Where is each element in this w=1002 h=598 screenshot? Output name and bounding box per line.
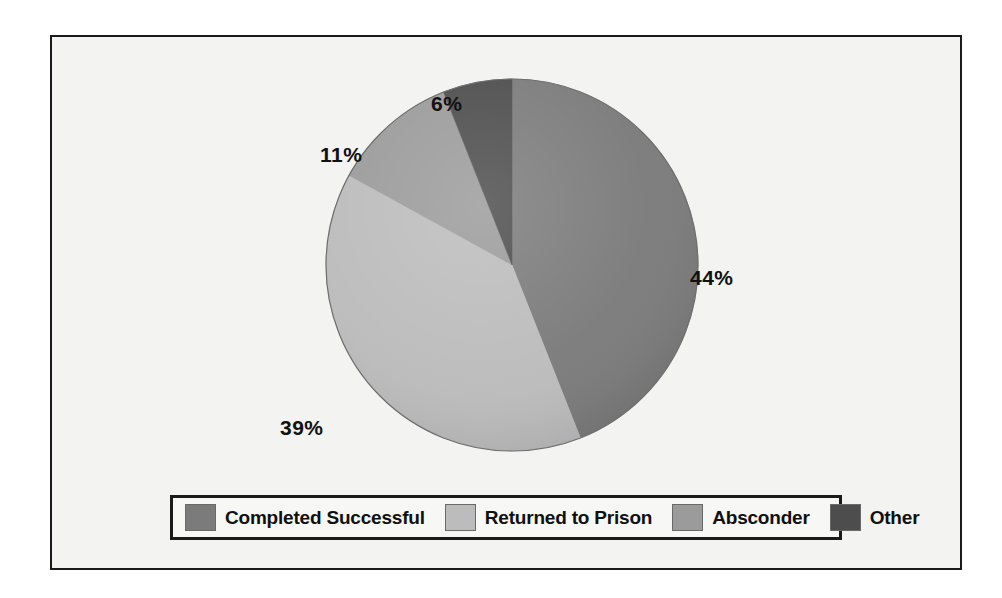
- legend-item-label: Absconder: [712, 507, 809, 529]
- pie-label-other: 6%: [431, 92, 462, 116]
- pie-chart-svg: [302, 55, 722, 475]
- chart-screenshot: 44% 39% 11% 6% Completed SuccessfulRetur…: [0, 0, 1002, 598]
- legend-item-label: Other: [870, 507, 920, 529]
- legend-item-other[interactable]: Other: [830, 504, 920, 531]
- pie-label-absconder: 11%: [320, 143, 362, 167]
- legend-item-label: Returned to Prison: [485, 507, 652, 529]
- legend-item-returned-to-prison[interactable]: Returned to Prison: [445, 504, 652, 531]
- legend-item-completed-successful[interactable]: Completed Successful: [185, 504, 425, 531]
- pie-sheen-overlay: [326, 79, 698, 451]
- legend-swatch-icon: [185, 504, 216, 531]
- legend-swatch-icon: [445, 504, 476, 531]
- pie-chart-plot-area: [302, 55, 722, 475]
- legend-swatch-icon: [672, 504, 703, 531]
- pie-label-returned-to-prison: 39%: [280, 416, 324, 440]
- pie-label-completed-successful: 44%: [690, 266, 734, 290]
- chart-legend: Completed SuccessfulReturned to PrisonAb…: [170, 495, 842, 540]
- chart-frame: 44% 39% 11% 6% Completed SuccessfulRetur…: [50, 35, 962, 570]
- legend-item-label: Completed Successful: [225, 507, 425, 529]
- legend-item-absconder[interactable]: Absconder: [672, 504, 809, 531]
- legend-swatch-icon: [830, 504, 861, 531]
